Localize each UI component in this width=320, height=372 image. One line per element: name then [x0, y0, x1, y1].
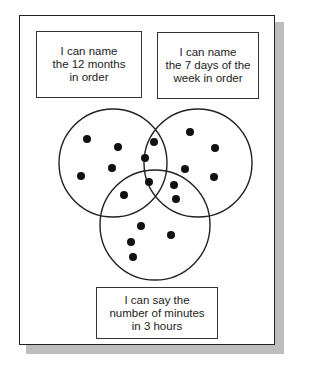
dot	[127, 238, 135, 246]
dot	[181, 165, 189, 173]
dot	[137, 222, 145, 230]
dot	[108, 164, 116, 172]
dot	[114, 143, 122, 151]
dot	[129, 253, 137, 261]
dot	[167, 231, 175, 239]
label-minutes: I can say the number of minutes in 3 hou…	[96, 287, 218, 339]
dot	[141, 154, 149, 162]
circle-minutes	[100, 170, 210, 280]
label-minutes-text: I can say the number of minutes in 3 hou…	[109, 294, 204, 333]
dot	[145, 178, 153, 186]
dot	[150, 138, 158, 146]
dot	[210, 173, 218, 181]
dot	[77, 172, 85, 180]
dot	[170, 181, 178, 189]
venn-dots	[77, 128, 219, 261]
dot	[186, 128, 194, 136]
circle-months	[59, 109, 167, 217]
dot	[120, 191, 128, 199]
dot	[83, 135, 91, 143]
dot	[172, 195, 180, 203]
venn-circles	[59, 109, 252, 280]
circle-days	[144, 109, 252, 217]
dot	[211, 144, 219, 152]
